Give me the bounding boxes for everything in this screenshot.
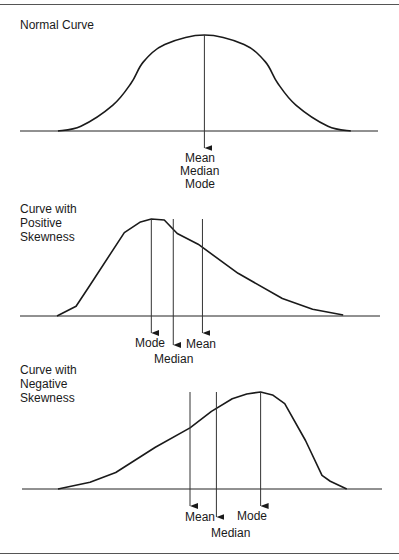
negative-curve bbox=[58, 392, 347, 489]
skewness-diagram bbox=[0, 0, 399, 560]
positive-curve bbox=[57, 219, 343, 316]
